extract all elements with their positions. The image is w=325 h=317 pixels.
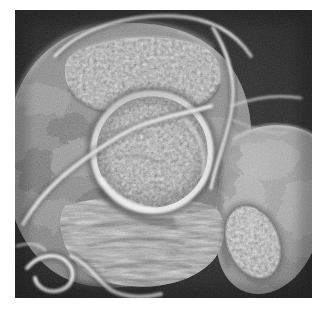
figure-page — [0, 0, 325, 317]
page-margin-top — [0, 0, 325, 10]
micrograph-plate — [15, 10, 312, 298]
page-margin-left — [0, 0, 15, 317]
micrograph-canvas — [15, 10, 312, 298]
specimen-group — [15, 10, 312, 298]
page-margin-bottom — [0, 298, 325, 317]
film-grain-overlay — [15, 10, 312, 298]
page-margin-right — [312, 0, 325, 317]
